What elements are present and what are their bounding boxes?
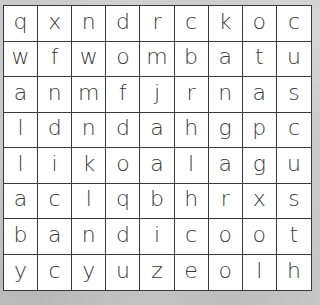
grid-cell-r7-c9[interactable]: t (277, 219, 311, 255)
grid-cell-r5-c4[interactable]: o (106, 148, 140, 184)
grid-cell-r3-c5[interactable]: j (140, 77, 174, 113)
grid-cell-r2-c8[interactable]: t (243, 42, 277, 78)
grid-cell-r4-c7[interactable]: g (209, 113, 243, 149)
grid-cell-r7-c4[interactable]: d (106, 219, 140, 255)
grid-cell-r7-c1[interactable]: b (4, 219, 38, 255)
grid-cell-r5-c9[interactable]: u (277, 148, 311, 184)
grid-cell-r4-c8[interactable]: p (243, 113, 277, 149)
grid-cell-r7-c2[interactable]: a (38, 219, 72, 255)
grid-cell-r1-c3[interactable]: n (72, 6, 106, 42)
grid-cell-r8-c3[interactable]: y (72, 255, 106, 291)
grid-cell-r3-c4[interactable]: f (106, 77, 140, 113)
grid-cell-r5-c8[interactable]: g (243, 148, 277, 184)
grid-cell-r3-c7[interactable]: n (209, 77, 243, 113)
grid-cell-r5-c1[interactable]: l (4, 148, 38, 184)
grid-cell-r6-c7[interactable]: r (209, 184, 243, 220)
grid-cell-r6-c2[interactable]: c (38, 184, 72, 220)
grid-cell-r4-c2[interactable]: d (38, 113, 72, 149)
grid-cell-r8-c7[interactable]: o (209, 255, 243, 291)
grid-cell-r3-c8[interactable]: a (243, 77, 277, 113)
grid-cell-r4-c3[interactable]: n (72, 113, 106, 149)
grid-cell-r1-c4[interactable]: d (106, 6, 140, 42)
grid-cell-r6-c3[interactable]: l (72, 184, 106, 220)
grid-cell-r2-c5[interactable]: m (140, 42, 174, 78)
grid-cell-r8-c4[interactable]: u (106, 255, 140, 291)
grid-cell-r3-c6[interactable]: r (175, 77, 209, 113)
grid-cell-r8-c8[interactable]: l (243, 255, 277, 291)
grid-cell-r8-c6[interactable]: e (175, 255, 209, 291)
grid-cell-r1-c8[interactable]: o (243, 6, 277, 42)
grid-cell-r6-c4[interactable]: q (106, 184, 140, 220)
grid-cell-r7-c6[interactable]: c (175, 219, 209, 255)
grid-cell-r3-c1[interactable]: a (4, 77, 38, 113)
grid-cell-r2-c3[interactable]: w (72, 42, 106, 78)
grid-cell-r4-c4[interactable]: d (106, 113, 140, 149)
grid-cell-r1-c7[interactable]: k (209, 6, 243, 42)
grid-cell-r3-c3[interactable]: m (72, 77, 106, 113)
grid-cell-r6-c6[interactable]: h (175, 184, 209, 220)
grid-cell-r5-c3[interactable]: k (72, 148, 106, 184)
grid-cell-r2-c7[interactable]: a (209, 42, 243, 78)
grid-cell-r8-c2[interactable]: c (38, 255, 72, 291)
grid-cell-r3-c9[interactable]: s (277, 77, 311, 113)
grid-cell-r3-c2[interactable]: n (38, 77, 72, 113)
grid-cell-r1-c5[interactable]: r (140, 6, 174, 42)
word-search-grid: qxndrckocwfwombatuanmfjrnasldndahgpcliko… (3, 5, 312, 291)
grid-cell-r5-c7[interactable]: a (209, 148, 243, 184)
grid-cell-r1-c9[interactable]: c (277, 6, 311, 42)
grid-cell-r7-c7[interactable]: o (209, 219, 243, 255)
grid-cell-r1-c2[interactable]: x (38, 6, 72, 42)
grid-cell-r5-c5[interactable]: a (140, 148, 174, 184)
grid-cell-r6-c9[interactable]: s (277, 184, 311, 220)
grid-cell-r6-c5[interactable]: b (140, 184, 174, 220)
grid-cell-r8-c5[interactable]: z (140, 255, 174, 291)
grid-cell-r6-c8[interactable]: x (243, 184, 277, 220)
grid-cell-r5-c2[interactable]: i (38, 148, 72, 184)
grid-cell-r2-c6[interactable]: b (175, 42, 209, 78)
grid-cell-r1-c1[interactable]: q (4, 6, 38, 42)
grid-cell-r2-c1[interactable]: w (4, 42, 38, 78)
grid-cell-r8-c1[interactable]: y (4, 255, 38, 291)
grid-cell-r2-c2[interactable]: f (38, 42, 72, 78)
grid-cell-r4-c6[interactable]: h (175, 113, 209, 149)
grid-cell-r6-c1[interactable]: a (4, 184, 38, 220)
grid-cell-r1-c6[interactable]: c (175, 6, 209, 42)
grid-cell-r4-c1[interactable]: l (4, 113, 38, 149)
grid-cell-r8-c9[interactable]: h (277, 255, 311, 291)
grid-cell-r4-c5[interactable]: a (140, 113, 174, 149)
grid-cell-r5-c6[interactable]: l (175, 148, 209, 184)
grid-cell-r7-c5[interactable]: i (140, 219, 174, 255)
grid-cell-r2-c9[interactable]: u (277, 42, 311, 78)
grid-cell-r2-c4[interactable]: o (106, 42, 140, 78)
grid-cell-r7-c3[interactable]: n (72, 219, 106, 255)
grid-cell-r7-c8[interactable]: o (243, 219, 277, 255)
grid-cell-r4-c9[interactable]: c (277, 113, 311, 149)
